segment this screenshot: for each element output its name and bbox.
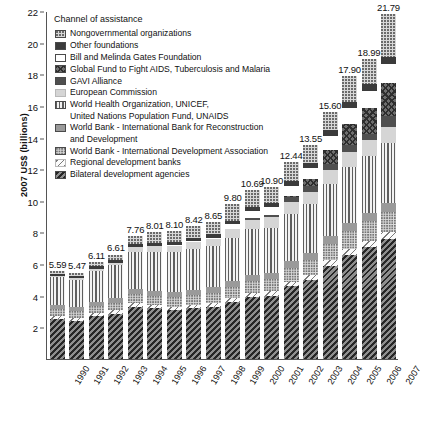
bar-value-label: 8.65 — [204, 210, 222, 221]
legend-item-globalfund[interactable]: Global Fund to Fight AIDS, Tuberculosis … — [55, 64, 305, 75]
bar-segment-ida — [167, 297, 182, 306]
bar-segment-ngo — [362, 59, 377, 85]
bar-column[interactable]: 7.76 — [128, 236, 143, 359]
y-tick-mark — [40, 43, 44, 44]
bar-segment-otherfound — [381, 57, 396, 64]
bar-segment-bilateral — [206, 307, 221, 359]
y-tick-mark — [40, 75, 44, 76]
y-tick-mark — [40, 170, 44, 171]
legend-label: European Commission — [70, 87, 305, 98]
bar-column[interactable]: 12.44 — [284, 162, 299, 359]
bar-segment-who — [108, 265, 123, 298]
legend-swatch-regional — [55, 159, 66, 167]
bar-column[interactable]: 15.60 — [323, 112, 338, 359]
bar-value-label: 7.76 — [127, 224, 145, 235]
bar-column[interactable]: 8.42 — [186, 226, 201, 359]
bar-segment-who — [186, 249, 201, 289]
x-tick-label: 2000 — [267, 364, 286, 386]
bar-segment-gates — [362, 91, 377, 108]
legend-item-bilateral[interactable]: Bilateral development agencies — [55, 169, 305, 180]
bar-segment-gavi — [381, 116, 396, 127]
bar-value-label: 8.42 — [185, 214, 203, 225]
legend-item-otherfound[interactable]: Other foundations — [55, 40, 305, 51]
bar-segment-bilateral — [225, 302, 240, 359]
legend-item-who[interactable]: World Health Organization, UNICEF, — [55, 99, 305, 110]
legend-label: World Bank - International Bank for Reco… — [70, 122, 305, 133]
bar-value-label: 8.01 — [146, 220, 164, 231]
x-tick-label: 2005 — [364, 364, 383, 386]
bar-column[interactable]: 18.99 — [362, 59, 377, 359]
bar-column[interactable]: 13.55 — [303, 145, 318, 359]
bar-segment-bilateral — [50, 319, 65, 359]
bar-segment-gates — [342, 108, 357, 124]
bar-segment-ida — [362, 221, 377, 240]
bar-segment-globalfund — [303, 179, 318, 186]
legend-item-gates[interactable]: Bill and Melinda Gates Foundation — [55, 52, 305, 63]
bar-segment-ibrd — [303, 253, 318, 260]
bar-segment-bilateral — [323, 266, 338, 359]
bar-segment-gates — [303, 168, 318, 179]
bar-column[interactable]: 21.79 — [381, 14, 396, 359]
legend-item-ngo[interactable]: Nongovernmental organizations — [55, 28, 305, 39]
bar-value-label: 6.61 — [107, 242, 125, 253]
legend-item-ida[interactable]: World Bank - International Development A… — [55, 146, 305, 157]
y-tick-mark — [40, 12, 44, 13]
bar-column[interactable]: 10.90 — [264, 187, 279, 359]
bar-segment-ec — [264, 217, 279, 227]
legend-item-gavi[interactable]: GAVI Alliance — [55, 76, 305, 87]
x-tick-label: 1995 — [169, 364, 188, 386]
bar-column[interactable]: 8.65 — [206, 222, 221, 359]
bar-segment-ngo — [303, 145, 318, 163]
bar-column[interactable]: 5.59 — [50, 271, 65, 359]
bar-column[interactable]: 9.80 — [225, 204, 240, 359]
bar-segment-ida — [128, 294, 143, 303]
bar-segment-bilateral — [264, 296, 279, 359]
bar-column[interactable]: 8.10 — [167, 231, 182, 359]
bar-segment-globalfund — [342, 124, 357, 145]
bar-segment-bilateral — [284, 286, 299, 359]
bar-segment-globalfund — [362, 108, 377, 134]
bar-segment-gates — [245, 211, 260, 218]
bar-segment-bilateral — [128, 307, 143, 359]
bar-segment-ec — [225, 229, 240, 238]
bar-segment-bilateral — [69, 321, 84, 359]
bar-segment-bilateral — [342, 255, 357, 359]
bar-segment-ngo — [128, 236, 143, 243]
bar-segment-ida — [381, 212, 396, 233]
bar-segment-ida — [225, 287, 240, 298]
bar-segment-ida — [108, 303, 123, 311]
bar-column[interactable]: 5.47 — [69, 272, 84, 359]
legend-swatch-ec — [55, 89, 66, 97]
bar-segment-ida — [147, 296, 162, 305]
bar-column[interactable]: 6.11 — [89, 262, 104, 359]
bar-segment-ida — [303, 260, 318, 275]
bar-segment-ec — [303, 192, 318, 204]
y-tick-mark — [40, 138, 44, 139]
legend-item-regional[interactable]: Regional development banks — [55, 157, 305, 168]
bar-column[interactable]: 6.61 — [108, 254, 123, 359]
legend-swatch-bilateral — [55, 171, 66, 179]
bar-value-label: 21.79 — [377, 2, 400, 13]
bar-column[interactable]: 10.69 — [245, 190, 260, 359]
legend-swatch-who — [55, 101, 66, 109]
legend-swatch-gates — [55, 54, 66, 62]
bar-column[interactable]: 17.90 — [342, 76, 357, 359]
bar-segment-ec — [206, 239, 221, 247]
bar-segment-ngo — [167, 231, 182, 242]
x-tick-label: 2002 — [306, 364, 325, 386]
bar-column[interactable]: 8.01 — [147, 232, 162, 359]
bar-segment-who — [264, 228, 279, 273]
bar-segment-ec — [167, 246, 182, 253]
bar-segment-who — [225, 238, 240, 282]
bar-segment-ngo — [381, 14, 396, 57]
legend-item-ibrd[interactable]: World Bank - International Bank for Reco… — [55, 122, 305, 133]
legend-item-ec[interactable]: European Commission — [55, 87, 305, 98]
x-tick-label: 1991 — [91, 364, 110, 386]
y-tick-label: 6 — [33, 260, 38, 271]
y-tick-label: 18 — [27, 70, 38, 81]
bar-segment-who — [89, 271, 104, 302]
legend-label: Bill and Melinda Gates Foundation — [70, 52, 305, 63]
bar-segment-ngo — [206, 222, 221, 234]
bar-segment-gates — [381, 64, 396, 82]
bar-segment-ida — [206, 293, 221, 303]
